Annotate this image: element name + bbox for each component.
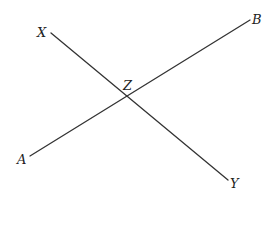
segment-xy [51, 33, 228, 180]
point-label-a: A [16, 152, 26, 167]
point-label-z: Z [122, 78, 133, 93]
point-label-x: X [36, 25, 47, 40]
point-label-y: Y [230, 176, 240, 191]
point-label-b: B [251, 12, 262, 27]
intersecting-lines-diagram: X B Z A Y [0, 0, 274, 231]
segment-ab [30, 20, 250, 156]
